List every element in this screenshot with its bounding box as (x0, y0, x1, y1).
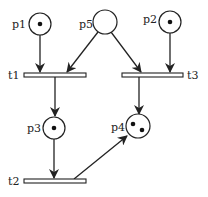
place-p2: p2 (143, 11, 181, 33)
token (140, 128, 145, 133)
transition-label: t1 (8, 69, 19, 82)
petri-net-diagram: p1 p5 p2 p3 p4 t1 t3 t2 (0, 0, 208, 197)
place-p4: p4 (111, 114, 150, 138)
transition-t2: t2 (8, 175, 86, 188)
arc-t2-p4 (74, 136, 127, 179)
place-p1: p1 (12, 13, 51, 35)
arc-p5-t3 (111, 32, 141, 72)
place-label: p4 (111, 121, 125, 134)
transition-label: t3 (187, 69, 198, 82)
transition-t1: t1 (8, 69, 86, 82)
transition-label: t2 (8, 175, 19, 188)
token (131, 122, 136, 127)
place-label: p2 (143, 13, 157, 26)
place-label: p1 (12, 18, 26, 31)
token (38, 22, 43, 27)
token (52, 126, 57, 131)
arc-p5-t1 (67, 32, 98, 72)
place-label: p3 (27, 122, 41, 135)
arcs (40, 32, 170, 179)
transition-t3: t3 (122, 69, 198, 82)
token (168, 20, 173, 25)
place-p5: p5 (79, 10, 117, 34)
place-p3: p3 (27, 117, 65, 139)
place-label: p5 (79, 18, 93, 31)
